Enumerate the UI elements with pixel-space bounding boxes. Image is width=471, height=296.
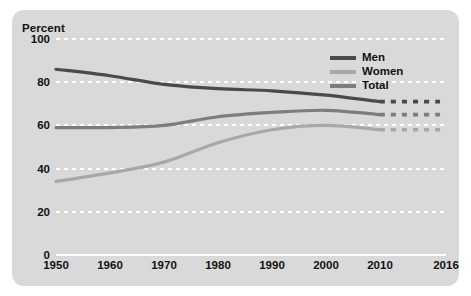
x-tick-2016: 2016	[433, 259, 459, 271]
legend: MenWomenTotal	[330, 51, 420, 93]
legend-swatch-men	[330, 56, 356, 60]
legend-label-men: Men	[362, 51, 385, 64]
legend-label-total: Total	[362, 79, 389, 92]
legend-item-women: Women	[330, 65, 420, 78]
y-tick-40: 40	[37, 163, 50, 175]
x-tick-2010: 2010	[367, 259, 393, 271]
x-tick-1960: 1960	[97, 259, 123, 271]
x-tick-1950: 1950	[43, 259, 69, 271]
legend-swatch-total	[330, 84, 356, 88]
x-axis-tick-labels: 19501960197019801990200020102016	[56, 259, 446, 277]
y-tick-60: 60	[37, 119, 50, 131]
legend-swatch-women	[330, 70, 356, 74]
legend-label-women: Women	[362, 65, 403, 78]
legend-item-total: Total	[330, 79, 420, 92]
y-tick-80: 80	[37, 76, 50, 88]
x-tick-1970: 1970	[151, 259, 177, 271]
legend-item-men: Men	[330, 51, 420, 64]
x-tick-2000: 2000	[313, 259, 339, 271]
y-tick-20: 20	[37, 206, 50, 218]
y-tick-100: 100	[31, 33, 50, 45]
y-axis-tick-labels: 100806040200	[14, 39, 50, 255]
x-tick-1980: 1980	[205, 259, 231, 271]
series-line-women	[56, 125, 380, 181]
x-tick-1990: 1990	[259, 259, 285, 271]
chart-figure: Percent 100806040200 1950196019701980199…	[0, 0, 471, 296]
